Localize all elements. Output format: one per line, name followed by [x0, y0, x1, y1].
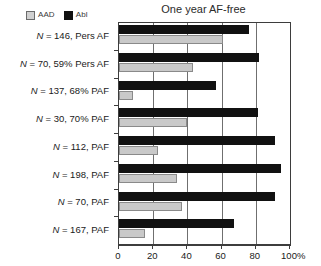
bar-group — [119, 134, 290, 162]
bar-aad — [119, 118, 187, 127]
bar-series-container — [119, 23, 290, 245]
x-axis-tick-label-60: 60 — [206, 251, 236, 261]
bar-abl — [119, 108, 258, 117]
x-axis-tick-label-20: 20 — [137, 251, 167, 261]
bar-abl — [119, 219, 234, 228]
y-axis-label: N = 30, 70% PAF — [36, 114, 109, 124]
legend-swatch-aad-icon — [26, 11, 35, 20]
bar-aad — [119, 174, 177, 183]
bar-abl — [119, 53, 259, 62]
bar-abl — [119, 81, 216, 90]
x-axis-tick-80 — [255, 244, 256, 249]
x-axis-tick-0 — [118, 244, 119, 249]
bar-group — [119, 162, 290, 190]
x-axis-tick-60 — [221, 244, 222, 249]
y-axis-label: N = 146, Pers AF — [36, 31, 109, 41]
legend-swatch-abl-icon — [64, 11, 73, 20]
bar-group — [119, 217, 290, 245]
bar-aad — [119, 35, 223, 44]
legend-label-abl: Abl — [76, 11, 88, 19]
x-axis-tick-label-40: 40 — [171, 251, 201, 261]
y-axis-label: N = 112, PAF — [53, 142, 109, 152]
bar-group — [119, 79, 290, 107]
x-axis-tick-label-80: 80 — [240, 251, 270, 261]
y-axis-label: N = 198, PAF — [52, 170, 109, 180]
bar-chart-figure: AAD Abl One year AF-free N = 146, Pers A… — [0, 0, 321, 266]
y-axis-label: N = 167, PAF — [52, 225, 109, 235]
x-axis-line — [118, 244, 289, 245]
x-axis-tick-label-0: 0 — [103, 251, 133, 261]
bar-abl — [119, 192, 275, 201]
legend-entry-abl: Abl — [64, 11, 88, 20]
x-axis-tick-100 — [289, 244, 290, 249]
x-axis-tick-label-100: 100 — [274, 251, 304, 261]
plot-area — [118, 22, 291, 246]
x-axis-tick-20 — [152, 244, 153, 249]
bar-aad — [119, 202, 182, 211]
legend-label-aad: AAD — [38, 11, 55, 19]
legend-entry-aad: AAD — [26, 11, 55, 20]
bar-abl — [119, 164, 281, 173]
y-axis-labels: N = 146, Pers AFN = 70, 59% Pers AFN = 1… — [0, 22, 114, 244]
bar-abl — [119, 136, 275, 145]
bar-aad — [119, 146, 158, 155]
bar-group — [119, 106, 290, 134]
x-axis-tick-40 — [186, 244, 187, 249]
y-axis-label: N = 137, 68% PAF — [31, 86, 109, 96]
bar-abl — [119, 25, 249, 34]
bar-aad — [119, 63, 193, 72]
bar-group — [119, 23, 290, 51]
chart-title: One year AF-free — [118, 4, 289, 15]
y-axis-label: N = 70, 59% Pers AF — [20, 59, 109, 69]
y-axis-label: N = 70, PAF — [58, 197, 109, 207]
bar-aad — [119, 91, 133, 100]
bar-aad — [119, 229, 145, 238]
chart-legend: AAD Abl — [26, 8, 88, 22]
bar-group — [119, 190, 290, 218]
bar-group — [119, 51, 290, 79]
